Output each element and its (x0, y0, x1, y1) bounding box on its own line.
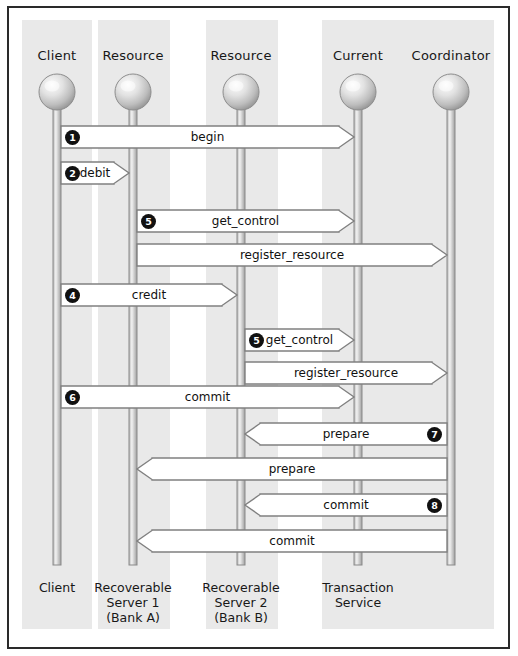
message-label-m12: commit (212, 534, 372, 548)
message-label-m3: get_control (166, 214, 326, 228)
actor-head-resource2 (223, 74, 259, 110)
message-number-m2: 2 (65, 166, 80, 181)
message-number-m1: 1 (65, 130, 80, 145)
actor-foot-label-resource1: RecoverableServer 1(Bank A) (73, 580, 193, 625)
message-number-m11: 8 (427, 498, 442, 513)
message-label-m8: commit (128, 390, 288, 404)
message-label-m11: commit (266, 498, 426, 512)
actor-head-coordinator (433, 74, 469, 110)
message-label-m4: register_resource (212, 248, 372, 262)
message-number-m9: 7 (427, 427, 442, 442)
message-label-m6: get_control (220, 333, 380, 347)
actor-foot-label-current: TransactionService (298, 580, 418, 610)
actor-head-resource1 (115, 74, 151, 110)
actor-foot-label-resource2: RecoverableServer 2(Bank B) (181, 580, 301, 625)
lifeline-coordinator (447, 108, 455, 565)
diagram-page: ClientClientResourceRecoverableServer 1(… (0, 0, 518, 656)
message-label-m1: begin (128, 130, 288, 144)
message-label-m10: prepare (212, 462, 372, 476)
message-label-m7: register_resource (266, 366, 426, 380)
message-number-m6: 5 (249, 333, 264, 348)
actor-top-label-resource2: Resource (181, 48, 301, 63)
message-number-m3: 5 (141, 214, 156, 229)
message-label-m5: credit (69, 288, 229, 302)
actor-top-label-resource1: Resource (73, 48, 193, 63)
message-number-m8: 6 (65, 390, 80, 405)
actor-top-label-coordinator: Coordinator (391, 48, 511, 63)
message-label-m2: debit (15, 166, 175, 180)
actor-heads-layer (39, 74, 469, 110)
message-label-m9: prepare (266, 427, 426, 441)
message-number-m5: 4 (65, 288, 80, 303)
sequence-diagram-canvas (0, 0, 518, 656)
actor-head-current (340, 74, 376, 110)
actor-head-client (39, 74, 75, 110)
